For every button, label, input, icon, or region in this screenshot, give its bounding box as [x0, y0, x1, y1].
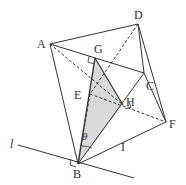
label-d: D: [134, 9, 143, 21]
label-f: F: [169, 118, 176, 130]
geometry-diagram: A D C F G E H B l I θ: [0, 0, 186, 185]
label-l: l: [10, 138, 13, 150]
label-theta: θ: [82, 131, 87, 142]
label-i: I: [121, 141, 125, 153]
label-c: C: [146, 80, 154, 92]
diagram-canvas: [0, 0, 186, 185]
label-b: B: [73, 168, 81, 180]
label-h: H: [126, 96, 135, 108]
label-e: E: [74, 89, 81, 101]
label-g: G: [94, 43, 103, 55]
label-a: A: [37, 38, 46, 50]
